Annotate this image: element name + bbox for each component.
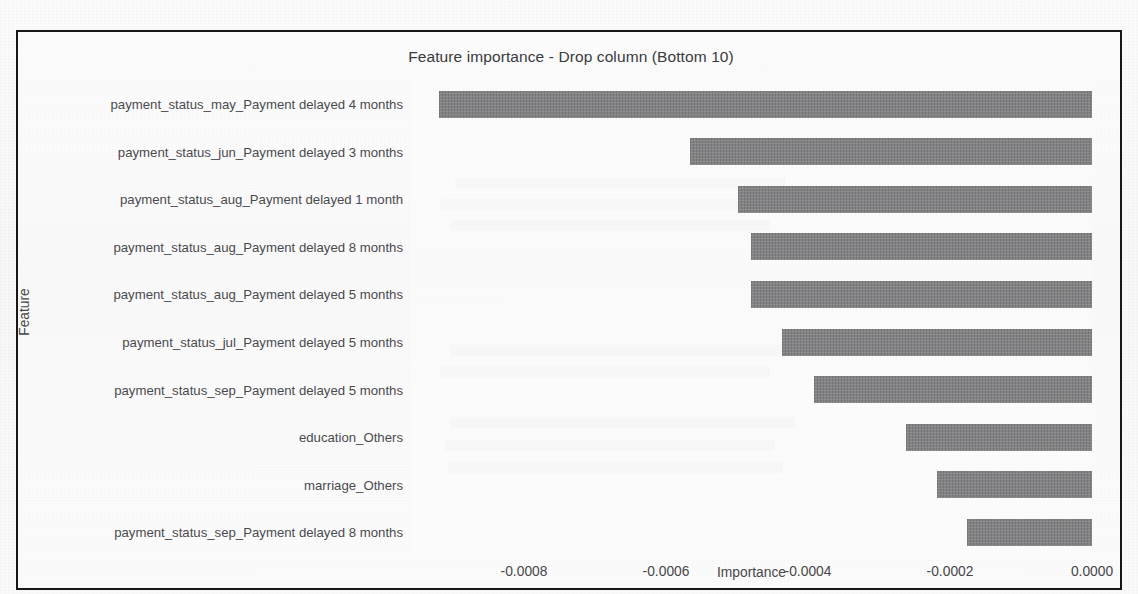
- bar-marriage-others: [937, 471, 1092, 498]
- chart-plot-area: Feature importance - Drop column (Bottom…: [18, 32, 1124, 592]
- y-tick-label: payment_status_sep_Payment delayed 5 mon…: [114, 382, 403, 397]
- y-tick-label: marriage_Others: [304, 477, 403, 492]
- bar-payment-status-jul-delayed-5-months: [782, 329, 1092, 356]
- figure-frame: Feature importance - Drop column (Bottom…: [16, 30, 1122, 590]
- bar-payment-status-aug-delayed-1-month: [738, 186, 1092, 213]
- bar-education-others: [906, 424, 1092, 451]
- y-tick-label: payment_status_jul_Payment delayed 5 mon…: [122, 335, 403, 350]
- bar-payment-status-sep-delayed-8-months: [967, 519, 1092, 546]
- y-axis-title: Feature: [17, 288, 32, 336]
- y-tick-label: payment_status_aug_Payment delayed 8 mon…: [113, 239, 403, 254]
- y-axis-tick-labels: payment_status_may_Payment delayed 4 mon…: [38, 80, 403, 556]
- bar-payment-status-aug-delayed-8-months: [751, 233, 1092, 260]
- chart-axes: -0.0008 -0.0006 -0.0004 -0.0002 0.0000: [411, 80, 1092, 556]
- x-axis-title: Importance: [411, 565, 1092, 580]
- bar-payment-status-jun-delayed-3-months: [690, 138, 1092, 165]
- y-tick-label: education_Others: [299, 430, 403, 445]
- y-tick-label: payment_status_aug_Payment delayed 1 mon…: [120, 192, 403, 207]
- y-tick-label: payment_status_sep_Payment delayed 8 mon…: [114, 525, 403, 540]
- bar-payment-status-aug-delayed-5-months: [751, 281, 1092, 308]
- y-tick-label: payment_status_may_Payment delayed 4 mon…: [111, 97, 404, 112]
- y-tick-label: payment_status_aug_Payment delayed 5 mon…: [113, 287, 403, 302]
- y-tick-label: payment_status_jun_Payment delayed 3 mon…: [118, 144, 403, 159]
- chart-title: Feature importance - Drop column (Bottom…: [18, 48, 1124, 66]
- bar-payment-status-may-delayed-4-months: [439, 91, 1092, 118]
- bar-payment-status-sep-delayed-5-months: [814, 376, 1092, 403]
